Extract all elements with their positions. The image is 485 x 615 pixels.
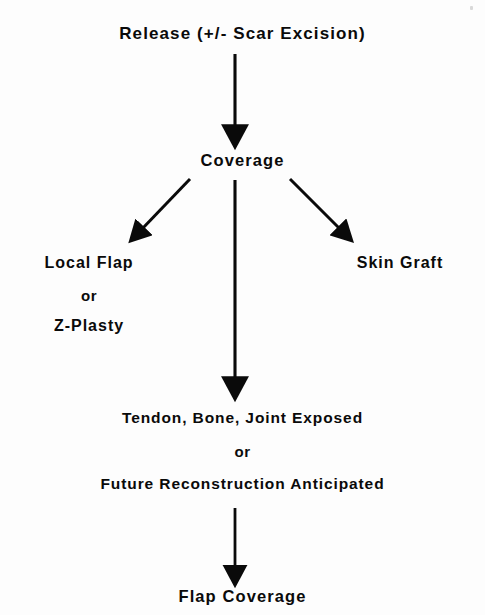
node-exposed-or: or <box>0 444 485 459</box>
scan-speck-artifact <box>470 6 473 10</box>
node-skin-graft: Skin Graft <box>315 255 485 271</box>
node-exposed-line1: Tendon, Bone, Joint Exposed <box>0 410 485 426</box>
node-coverage: Coverage <box>0 152 485 169</box>
node-release-label: Release (+/- Scar Excision) <box>0 25 485 42</box>
node-local-flap: Local Flap or Z-Plasty <box>4 255 174 334</box>
node-skin-graft-label: Skin Graft <box>315 255 485 271</box>
flowchart-canvas: Release (+/- Scar Excision) Coverage Loc… <box>0 0 485 615</box>
node-exposed-line3: Future Reconstruction Anticipated <box>0 476 485 492</box>
node-flap-coverage: Flap Coverage <box>0 588 485 605</box>
node-exposed: Tendon, Bone, Joint Exposed or Future Re… <box>0 410 485 491</box>
arrow-coverage-to-local-flap <box>142 179 190 229</box>
node-local-flap-line3: Z-Plasty <box>4 318 174 334</box>
node-flap-coverage-label: Flap Coverage <box>0 588 485 605</box>
node-local-flap-line1: Local Flap <box>4 255 174 271</box>
node-release: Release (+/- Scar Excision) <box>0 25 485 42</box>
arrow-coverage-to-skin-graft <box>290 179 340 229</box>
node-coverage-label: Coverage <box>0 152 485 169</box>
node-local-flap-or: or <box>4 288 174 303</box>
